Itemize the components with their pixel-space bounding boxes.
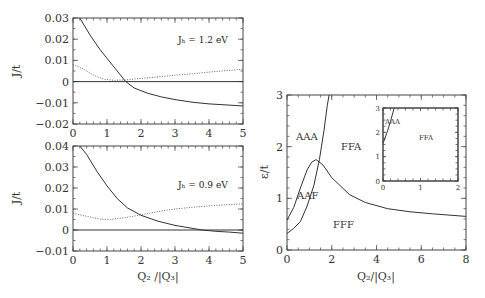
chart-top-left: 012345−0.02−0.0100.010.020.03J/tJₕ = 1.2… — [10, 12, 247, 140]
x-tick-label: 2 — [138, 127, 145, 140]
x-tick-label: 0 — [70, 254, 77, 267]
y-tick-label: 0.01 — [45, 203, 70, 216]
y-tick-label: 0.01 — [45, 54, 70, 67]
annotation: Jₕ = 1.2 eV — [177, 35, 228, 45]
annotation: Jₕ = 0.9 eV — [177, 180, 228, 190]
y-tick-label: 3 — [376, 105, 380, 113]
y-tick-label: 0.02 — [45, 33, 70, 46]
region-label-fff: FFF — [333, 219, 354, 230]
y-tick-label: 2 — [376, 129, 380, 137]
x-tick-label: 4 — [373, 253, 380, 266]
x-tick-label: 4 — [206, 254, 213, 267]
x-axis-label: Q₂/|Q₃| — [357, 270, 395, 284]
x-tick-label: 3 — [172, 254, 179, 267]
x-tick-label: 8 — [463, 253, 470, 266]
y-axis-label: J/t — [10, 191, 23, 205]
x-tick-label: 3 — [172, 127, 179, 140]
x-tick-label: 2 — [328, 253, 335, 266]
region-label-aaf: AAF — [296, 190, 318, 201]
y-tick-label: 0.03 — [45, 161, 70, 174]
y-tick-label: 1 — [276, 192, 283, 205]
y-axis-label: ε/t — [258, 165, 271, 179]
chart-right: 024680123ε/tQ₂/|Q₃|AAAFFAAAFFFF — [258, 89, 470, 284]
region-label-ffa: FFA — [341, 141, 362, 152]
y-tick-label: 3 — [276, 89, 283, 102]
chart-bottom-left: 012345−0.0100.010.020.030.04J/tJₕ = 0.9 … — [10, 140, 247, 284]
y-tick-label: −0.02 — [35, 118, 69, 131]
y-tick-label: 0 — [62, 76, 69, 89]
y-tick-label: −0.01 — [35, 245, 69, 258]
series-dotted — [73, 204, 243, 220]
y-tick-label: 0.03 — [45, 12, 70, 25]
plot-frame — [287, 95, 466, 250]
plot-frame — [73, 146, 243, 251]
y-tick-label: 0 — [276, 244, 283, 257]
series-dotted — [73, 65, 243, 81]
x-tick-label: 5 — [240, 254, 247, 267]
x-tick-label: 4 — [206, 127, 213, 140]
x-tick-label: 5 — [240, 127, 247, 140]
x-tick-label: 0 — [284, 253, 291, 266]
x-tick-label: 0 — [381, 184, 385, 192]
x-tick-label: 6 — [418, 253, 425, 266]
inset-region-label-ffa: FFA — [419, 134, 434, 142]
y-tick-label: 0 — [62, 224, 69, 237]
x-tick-label: 1 — [104, 254, 111, 267]
x-tick-label: 1 — [418, 184, 422, 192]
x-tick-label: 2 — [456, 184, 460, 192]
x-tick-label: 2 — [138, 254, 145, 267]
y-tick-label: 1 — [376, 153, 380, 161]
figure: 012345−0.02−0.0100.010.020.03J/tJₕ = 1.2… — [0, 0, 485, 298]
y-tick-label: 0 — [376, 178, 380, 186]
inset-region-label-aaa: AAA — [384, 118, 401, 126]
x-tick-label: 0 — [70, 127, 77, 140]
y-tick-label: 2 — [276, 141, 283, 154]
x-axis-label: Q₂ /|Q₃| — [137, 270, 178, 284]
y-tick-label: 0.04 — [45, 140, 70, 153]
x-tick-label: 1 — [104, 127, 111, 140]
y-tick-label: 0.02 — [45, 182, 70, 195]
y-axis-label: J/t — [10, 64, 23, 78]
chart-inset: 0120123AAAFFA — [376, 105, 461, 193]
y-tick-label: −0.01 — [35, 97, 69, 110]
series-solid — [80, 18, 243, 106]
region-label-aaa: AAA — [295, 131, 318, 142]
series-boundary-FFF — [316, 160, 466, 217]
